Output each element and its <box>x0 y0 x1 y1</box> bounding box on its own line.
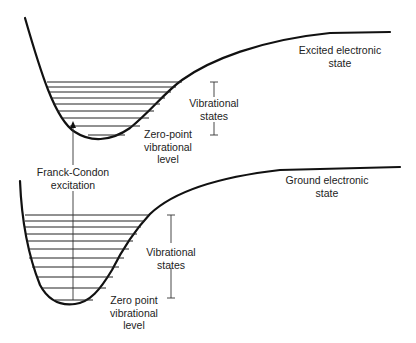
ground-vibrational-states-label: Vibrational states <box>141 246 201 271</box>
ground-vib-line1: Vibrational <box>141 246 201 259</box>
ground-vibrational-levels <box>25 215 149 300</box>
excited-vib-line1: Vibrational <box>184 97 244 110</box>
excited-state-label: Excited electronic state <box>285 44 395 69</box>
excited-zp-line2: vibrational <box>133 141 203 154</box>
excited-vibrational-states-label: Vibrational states <box>184 97 244 122</box>
ground-zp-line2: vibrational <box>99 307 169 320</box>
excited-state-label-line2: state <box>285 57 395 70</box>
ground-zp-line1: Zero point <box>99 294 169 307</box>
ground-zero-point-label: Zero point vibrational level <box>99 294 169 332</box>
franck-condon-line1: Franck-Condon <box>33 166 113 179</box>
ground-vib-line2: states <box>141 259 201 272</box>
franck-condon-label: Franck-Condon excitation <box>33 166 113 191</box>
excited-zp-line3: level <box>133 153 203 166</box>
ground-state-label-line1: Ground electronic <box>272 174 382 187</box>
ground-state-label: Ground electronic state <box>272 174 382 199</box>
excited-zp-line1: Zero-point <box>133 128 203 141</box>
franck-condon-line2: excitation <box>33 179 113 192</box>
ground-zp-line3: level <box>99 319 169 332</box>
excited-state-label-line1: Excited electronic <box>285 44 395 57</box>
franck-condon-arrow <box>70 121 76 300</box>
ground-state-label-line2: state <box>272 187 382 200</box>
excited-zero-point-label: Zero-point vibrational level <box>133 128 203 166</box>
excited-vib-line2: states <box>184 110 244 123</box>
arrowhead-icon <box>70 121 76 128</box>
